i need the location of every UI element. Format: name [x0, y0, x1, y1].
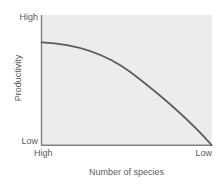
x-axis-tick-low: Low — [186, 148, 212, 158]
plot-area-background — [42, 15, 213, 145]
y-axis-tick-high: High — [7, 12, 38, 22]
x-axis-title: Number of species — [41, 167, 212, 177]
y-axis-title: Productivity — [13, 23, 23, 133]
chart-figure: High Low High Low Number of species Prod… — [0, 0, 224, 184]
y-axis-tick-low: Low — [7, 136, 38, 146]
x-axis-tick-high: High — [34, 148, 53, 158]
